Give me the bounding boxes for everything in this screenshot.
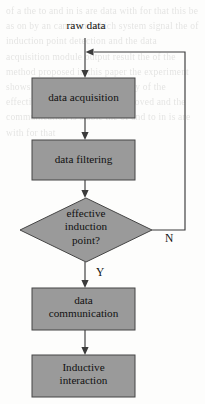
hit-data-communication[interactable] [32,288,135,330]
edge-decision-yes [81,262,88,288]
edge-raw-to-acquisition [81,38,88,78]
edge-filtering-to-decision [81,180,88,198]
hit-data-filtering[interactable] [32,140,135,180]
edge-communication-to-interaction [81,330,88,355]
flowchart-figure: of a the to and in is are data with for … [0,0,205,404]
edge-acquisition-to-filtering [81,118,88,140]
hit-data-acquisition[interactable] [32,78,135,118]
hit-effective-induction-point[interactable] [20,198,152,262]
hit-inductive-interaction[interactable] [32,355,135,397]
